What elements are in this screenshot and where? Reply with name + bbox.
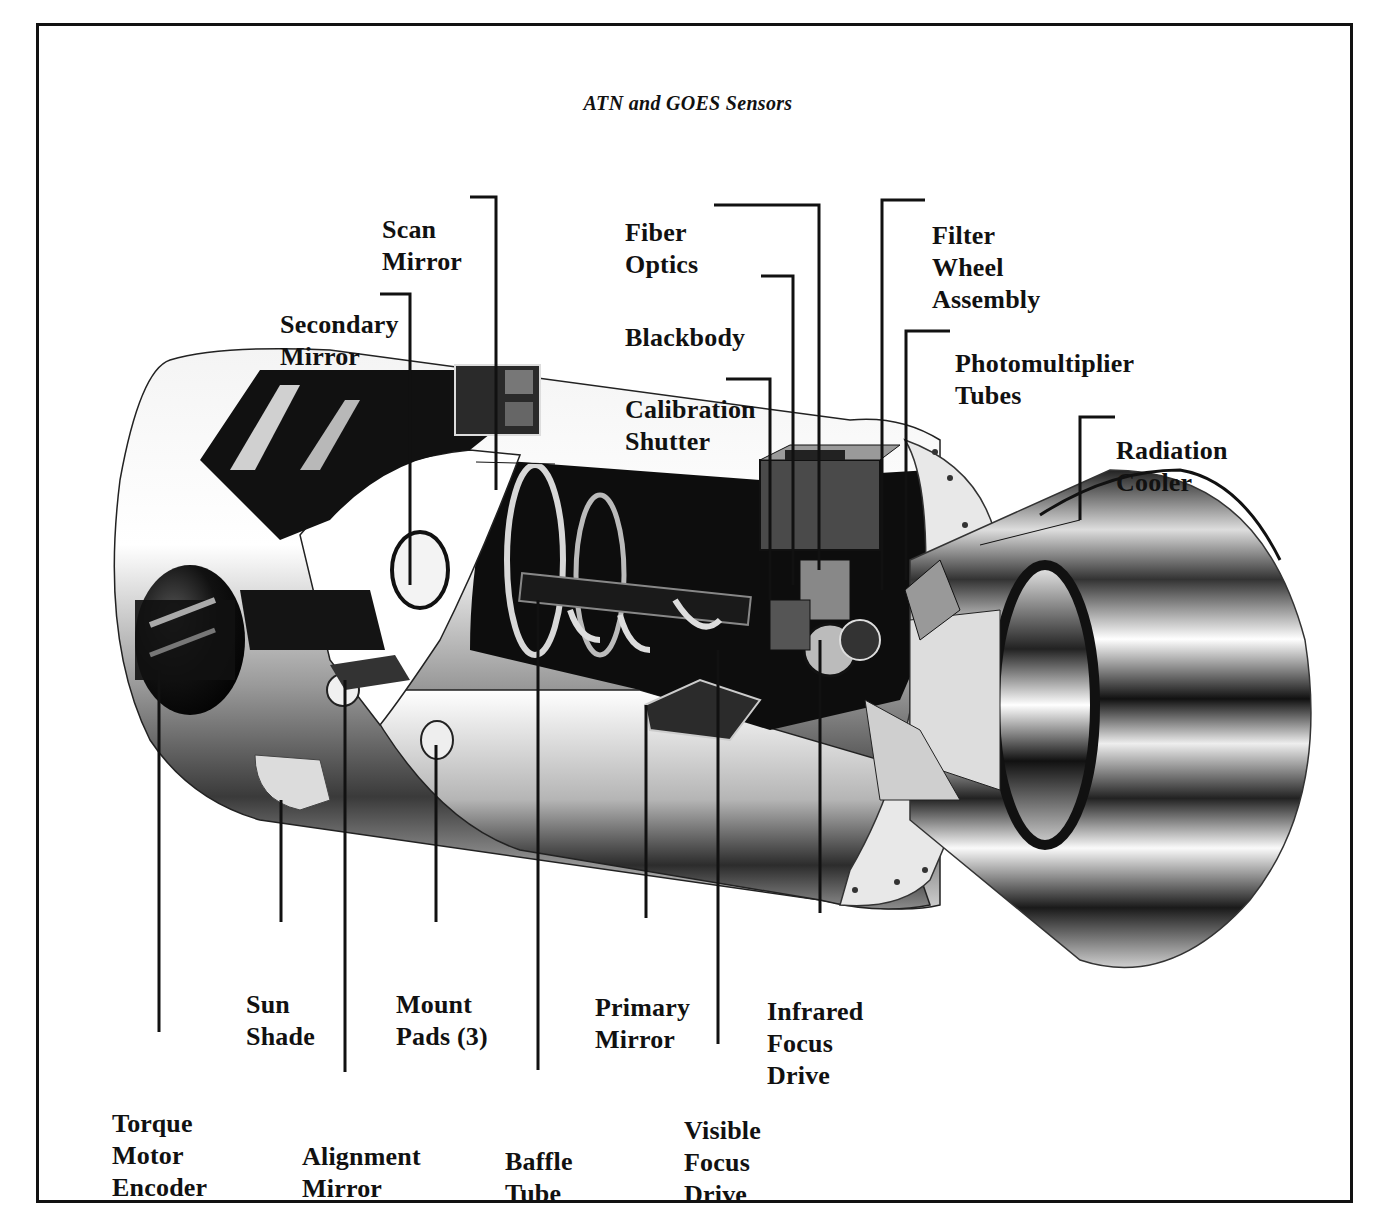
label-torque-motor-encoder: TorqueMotorEncoder [112,1044,207,1232]
label-infrared-focus-drive: InfraredFocusDrive [767,932,863,1124]
torque-motor-encoder-part [135,565,245,715]
label-alignment-mirror: AlignmentMirror [302,1077,421,1232]
label-photomultiplier-tubes: PhotomultiplierTubes [955,284,1134,444]
label-primary-mirror: PrimaryMirror [595,928,690,1088]
label-secondary-mirror: SecondaryMirror [280,245,399,405]
label-radiation-cooler: RadiationCooler [1116,371,1228,531]
label-visible-focus-drive: VisibleFocusDrive [684,1051,761,1232]
label-baffle-tube: BaffleTube [505,1082,573,1232]
label-mount-pads: MountPads (3) [396,925,488,1085]
label-sun-shade: SunShade [246,925,315,1085]
label-calibration-shutter: CalibrationShutter [625,330,756,490]
